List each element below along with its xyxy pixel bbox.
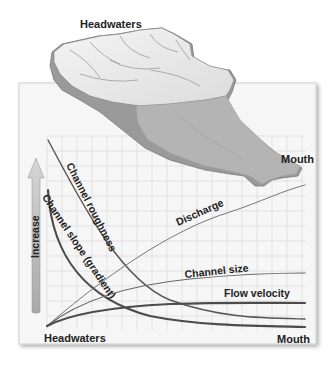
x-start-label: Headwaters [44, 332, 106, 344]
flow-velocity-label: Flow velocity [224, 287, 290, 299]
x-end-label: Mouth [277, 333, 310, 345]
stream-profile-diagram: Headwaters Mouth Increase Channel roughn… [0, 0, 328, 371]
headwaters-top-label: Headwaters [80, 18, 142, 30]
increase-axis-label: Increase [29, 215, 41, 258]
mouth-top-label: Mouth [281, 153, 314, 165]
